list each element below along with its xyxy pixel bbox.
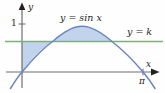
y-axis-label: y — [28, 3, 33, 12]
sine-graph-figure: y x 1 π y = sin x y = k — [0, 0, 165, 93]
x-axis-arrowhead — [151, 69, 160, 76]
y-axis-arrowhead — [19, 3, 26, 11]
x-tick-label-pi: π — [139, 77, 145, 86]
curve-equation-label: y = sin x — [60, 13, 102, 23]
line-equation-label: y = k — [127, 27, 152, 37]
y-tick-label-one: 1 — [11, 19, 17, 28]
x-axis-label: x — [146, 60, 151, 69]
